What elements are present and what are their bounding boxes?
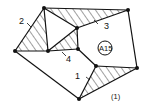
label-3: 3 (104, 21, 109, 31)
figure-caption: (1) (111, 92, 121, 101)
region-label: A15 (99, 44, 112, 53)
graph-diagram: 2 3 4 1 A15 (1) (0, 0, 148, 111)
label-4: 4 (66, 54, 71, 64)
label-2: 2 (19, 16, 24, 26)
label-1: 1 (75, 71, 80, 81)
